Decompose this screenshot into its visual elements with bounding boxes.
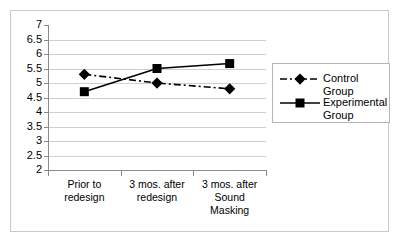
square-marker-icon <box>225 59 234 68</box>
chart-legend: Control GroupExperimental Group <box>272 63 390 123</box>
square-marker-icon <box>296 99 305 108</box>
legend-label: Experimental Group <box>323 96 387 122</box>
square-marker-icon <box>80 87 89 96</box>
diamond-marker-icon <box>294 73 305 84</box>
y-tick-mark <box>44 69 48 70</box>
diamond-marker-icon <box>151 77 162 88</box>
x-tick-mark <box>266 171 267 176</box>
square-marker-icon <box>153 64 162 73</box>
y-tick-mark <box>44 112 48 113</box>
y-tick-mark <box>44 98 48 99</box>
y-tick-mark <box>44 156 48 157</box>
diamond-marker-icon <box>224 83 235 94</box>
legend-item: Control Group <box>279 72 389 98</box>
legend-swatch <box>279 96 321 110</box>
legend-sample-diamond-marker-icon <box>279 72 321 86</box>
chart-figure: 76.565.554.543.532.52 Prior to redesign3… <box>0 0 402 245</box>
legend-sample-square-marker-icon <box>279 96 321 110</box>
x-tick-mark <box>48 171 49 176</box>
x-tick-mark <box>121 171 122 176</box>
legend-item: Experimental Group <box>279 96 387 122</box>
y-tick-mark <box>44 40 48 41</box>
y-tick-mark <box>44 127 48 128</box>
y-tick-mark <box>44 83 48 84</box>
legend-label: Control Group <box>323 72 389 98</box>
x-tick-mark <box>193 171 194 176</box>
legend-swatch <box>279 72 321 86</box>
y-tick-mark <box>44 54 48 55</box>
y-tick-mark <box>44 141 48 142</box>
y-tick-mark <box>44 25 48 26</box>
diamond-marker-icon <box>79 69 90 80</box>
